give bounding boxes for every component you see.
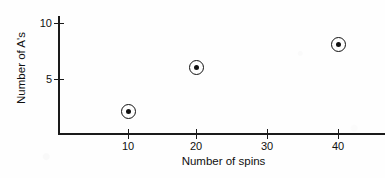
x-axis-tick-40 [338, 129, 339, 139]
x-axis-tick-label-30: 30 [255, 141, 279, 152]
data-point [331, 37, 346, 52]
x-axis-tick-label-20: 20 [184, 141, 208, 152]
x-axis-tick-label-40: 40 [326, 141, 350, 152]
data-point [121, 104, 136, 119]
data-point [189, 60, 204, 75]
x-axis-title: Number of spins [0, 155, 385, 167]
x-axis-tick-10 [128, 129, 129, 139]
y-axis-tick-label-5: 5 [46, 74, 52, 85]
x-axis-line [58, 133, 385, 135]
y-axis-tick-5 [54, 79, 64, 80]
x-axis-tick-20 [196, 129, 197, 139]
x-axis-title-text: Number of spins [120, 155, 266, 167]
y-axis-title: Number of A's [15, 10, 27, 126]
y-axis-tick-label-10: 10 [40, 18, 52, 29]
x-axis-tick-30 [267, 129, 268, 139]
y-axis-line [58, 16, 60, 135]
scatter-plot-figure: 10 5 10 20 30 40 Number of spins Number … [0, 0, 385, 178]
x-axis-tick-label-10: 10 [116, 141, 140, 152]
y-axis-tick-10 [54, 23, 64, 24]
